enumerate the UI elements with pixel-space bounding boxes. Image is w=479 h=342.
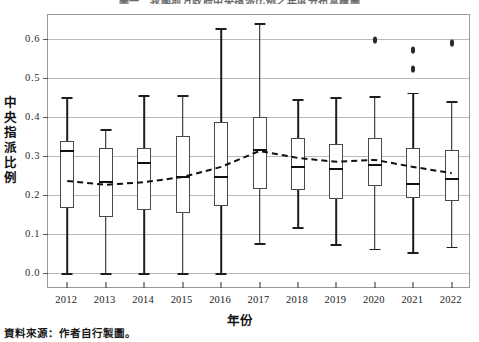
y-tick-mark <box>43 117 48 118</box>
x-tick-label: 2014 <box>132 294 154 305</box>
y-tick-label: 0.6 <box>0 33 40 44</box>
x-tick-mark <box>182 282 183 288</box>
x-tick-mark <box>413 282 414 288</box>
x-tick-mark <box>144 282 145 288</box>
x-tick-label: 2012 <box>55 294 77 305</box>
x-tick-mark <box>67 282 68 288</box>
x-tick-label: 2016 <box>209 294 231 305</box>
x-tick-label: 2021 <box>401 294 423 305</box>
y-axis-label: 中央指派比例 <box>2 96 18 186</box>
x-tick-label: 2015 <box>171 294 193 305</box>
chart-title: 圖一 我國地方政府中央指派比例之年度分布盒鬚圖 <box>0 0 479 4</box>
x-tick-mark <box>451 282 452 288</box>
y-tick-mark <box>43 273 48 274</box>
x-tick-mark <box>336 282 337 288</box>
x-tick-label: 2013 <box>94 294 116 305</box>
y-tick-mark <box>43 195 48 196</box>
y-tick-label: 0.1 <box>0 228 40 239</box>
y-tick-label: 0.5 <box>0 72 40 83</box>
y-tick-label: 0.0 <box>0 267 40 278</box>
source-note: 資料來源：作者自行製圖。 <box>4 325 136 340</box>
y-tick-mark <box>43 234 48 235</box>
x-tick-label: 2019 <box>325 294 347 305</box>
mean-series-line <box>48 15 471 289</box>
x-tick-mark <box>297 282 298 288</box>
x-tick-mark <box>221 282 222 288</box>
plot-inner <box>48 15 469 287</box>
y-tick-mark <box>43 156 48 157</box>
x-tick-label: 2020 <box>363 294 385 305</box>
x-tick-label: 2022 <box>440 294 462 305</box>
x-tick-mark <box>259 282 260 288</box>
x-tick-mark <box>374 282 375 288</box>
plot-area <box>47 14 470 288</box>
y-tick-mark <box>43 39 48 40</box>
y-tick-label: 0.2 <box>0 189 40 200</box>
y-tick-label: 0.4 <box>0 111 40 122</box>
y-tick-mark <box>43 78 48 79</box>
x-tick-mark <box>105 282 106 288</box>
y-tick-label: 0.3 <box>0 150 40 161</box>
x-tick-label: 2018 <box>286 294 308 305</box>
x-tick-label: 2017 <box>248 294 270 305</box>
